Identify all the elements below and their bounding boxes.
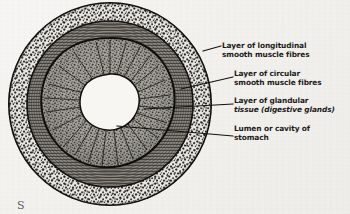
label-line-2: tissue (digestive glands) — [234, 105, 335, 114]
diagram-layer-group — [9, 3, 212, 206]
label-line-2: smooth muscle fibres — [234, 78, 322, 87]
label-line-2: smooth muscle fibres — [222, 50, 310, 59]
label-line-1: Layer of glandular — [234, 96, 335, 105]
label-line-2: stomach — [234, 133, 310, 142]
label-layer-of-longitudinal-smooth-muscle-fibres: Layer of longitudinal smooth muscle fibr… — [222, 41, 310, 60]
label-line-1: Layer of circular — [234, 69, 322, 78]
label-layer-of-circular-smooth-muscle-fibres: Layer of circular smooth muscle fibres — [234, 69, 322, 88]
caption-fragment: S — [17, 199, 25, 212]
label-line-1: Layer of longitudinal — [222, 41, 310, 50]
label-lumen-or-cavity-of-stomach: Lumen or cavity of stomach — [234, 124, 310, 143]
leader-line-longitudinal — [203, 46, 221, 51]
label-line-1: Lumen or cavity of — [234, 124, 310, 133]
lumen-cavity — [80, 74, 139, 130]
label-layer-of-glandular-tissue: Layer of glandular tissue (digestive gla… — [234, 96, 335, 115]
figure-root: Layer of longitudinal smooth muscle fibr… — [0, 0, 350, 214]
